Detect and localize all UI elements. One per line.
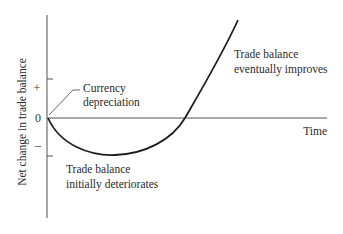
- zero-tick-label: 0: [35, 111, 41, 125]
- deteriorates-label-line1: Trade balance: [66, 163, 130, 175]
- depreciation-label-line2: depreciation: [83, 96, 140, 109]
- depreciation-label-line1: Currency: [83, 82, 126, 95]
- j-curve-line: [48, 20, 238, 155]
- depreciation-leader-line: [49, 90, 80, 115]
- plus-tick-label: +: [34, 81, 41, 95]
- improves-label-line2: eventually improves: [234, 63, 328, 76]
- y-axis-label: Net change in trade balance: [16, 58, 29, 186]
- improves-label-line1: Trade balance: [234, 48, 298, 60]
- x-axis-label: Time: [303, 125, 327, 137]
- j-curve-diagram: + 0 – Net change in trade balance Time C…: [0, 0, 343, 234]
- deteriorates-label-line2: initially deteriorates: [66, 178, 159, 191]
- minus-tick-label: –: [34, 138, 42, 152]
